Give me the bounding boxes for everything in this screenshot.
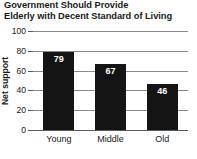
tick-mark-80 [28,51,33,52]
y-tick-label-40: 40 [16,86,26,95]
y-axis-title: Net support [0,31,11,130]
x-category-label-middle: Middle [85,134,137,144]
y-tick-label-0: 0 [21,126,26,135]
bar-value-young: 79 [43,54,74,64]
y-tick-label-100: 100 [12,27,26,36]
x-category-label-young: Young [33,134,85,144]
gridline-0: 0 [33,130,188,131]
plot-area: 100 80 60 40 20 0 [33,31,188,130]
bar-middle[interactable]: 67 [95,64,126,130]
tick-mark-20 [28,110,33,111]
bar-value-old: 46 [147,86,178,96]
bar-young[interactable]: 79 [43,52,74,130]
bar-chart: Net support 100 80 60 40 20 [0,0,197,159]
x-category-label-old: Old [136,134,188,144]
bar-value-middle: 67 [95,66,126,76]
gridline-100: 100 [33,31,188,32]
bar-old[interactable]: 46 [147,84,178,130]
tick-mark-0 [28,130,33,131]
y-tick-label-60: 60 [16,66,26,75]
tick-mark-40 [28,90,33,91]
y-axis-title-label: Net support [1,56,11,104]
y-tick-label-80: 80 [16,46,26,55]
y-tick-label-20: 20 [16,106,26,115]
tick-mark-60 [28,71,33,72]
tick-mark-100 [28,31,33,32]
